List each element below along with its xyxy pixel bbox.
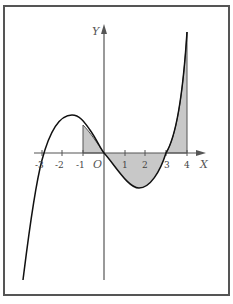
x-axis-arrow-icon: [196, 150, 206, 156]
x-tick-label-1: 1: [122, 160, 128, 170]
x-axis-label: X: [199, 158, 209, 171]
x-tick-label-3: 3: [164, 160, 170, 170]
shaded-region-3-to-4: [166, 32, 187, 153]
origin-label: O: [93, 158, 102, 171]
x-tick-label-neg2: -2: [55, 160, 64, 170]
function-graph: -3 -2 -1 O 1 2 3 4 X Y: [0, 0, 233, 304]
x-tick-label-2: 2: [142, 160, 148, 170]
x-tick-label-neg3: -3: [35, 160, 44, 170]
shaded-region-0-to-3: [104, 153, 166, 188]
x-tick-label-neg1: -1: [76, 160, 85, 170]
x-tick-label-4: 4: [184, 160, 190, 170]
y-axis-arrow-icon: [101, 24, 107, 34]
y-axis-label: Y: [92, 25, 101, 38]
